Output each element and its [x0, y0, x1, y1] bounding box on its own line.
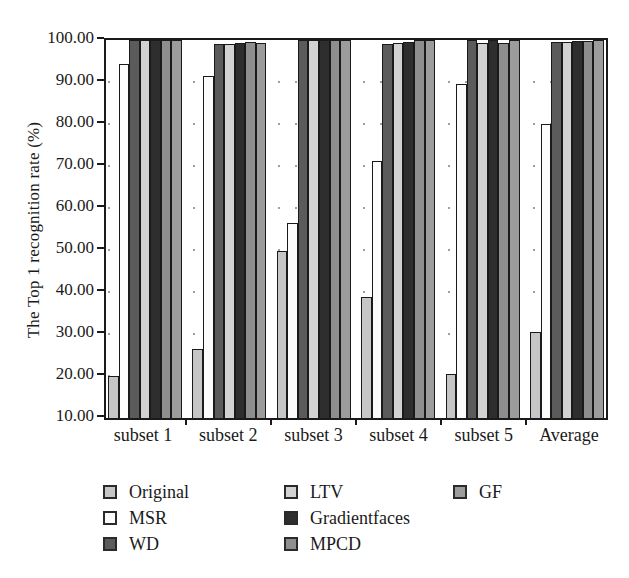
bar-gf — [256, 43, 267, 418]
bar-original — [446, 374, 457, 418]
bar-gf — [171, 40, 182, 418]
bar-original — [277, 251, 288, 418]
y-tick-mark — [97, 163, 104, 165]
x-tick-label: subset 3 — [284, 425, 343, 446]
legend-item-wd: WD — [103, 531, 284, 557]
bar-group — [277, 40, 351, 418]
x-tick-mark — [355, 418, 357, 425]
legend-item-gf: GF — [453, 479, 502, 505]
x-tick-label: subset 1 — [114, 425, 173, 446]
y-tick-label: 70.00 — [0, 155, 94, 173]
bar-ltv — [393, 43, 404, 418]
y-tick-label: 20.00 — [0, 365, 94, 383]
bar-wd — [551, 42, 562, 418]
bar-ltv — [477, 43, 488, 418]
bar-wd — [467, 40, 478, 418]
legend-label: Original — [129, 482, 189, 503]
legend-item-gradientfaces: Gradientfaces — [284, 505, 453, 531]
legend-swatch-msr — [103, 511, 117, 525]
plot-area — [104, 38, 608, 420]
bar-group — [108, 40, 182, 418]
bar-group — [361, 40, 435, 418]
bar-wd — [298, 40, 309, 418]
bar-original — [108, 376, 119, 418]
y-tick-mark — [97, 331, 104, 333]
bar-msr — [119, 64, 130, 418]
y-tick-label: 100.00 — [0, 29, 94, 47]
bar-msr — [372, 161, 383, 418]
bar-ltv — [140, 40, 151, 418]
bar-mpcd — [414, 40, 425, 418]
legend: OriginalMSRWDLTVGradientfacesMPCDGF — [103, 479, 502, 557]
y-tick-mark — [97, 205, 104, 207]
y-tick-mark — [97, 289, 104, 291]
bar-mpcd — [330, 40, 341, 418]
bar-chart-figure: The Top 1 recognition rate (%) 10.0020.0… — [0, 0, 629, 578]
y-tick-mark — [97, 79, 104, 81]
bar-gradientfaces — [319, 40, 330, 418]
legend-swatch-original — [103, 485, 117, 499]
bar-group — [192, 40, 266, 418]
bar-gradientfaces — [235, 43, 246, 418]
bar-gradientfaces — [488, 40, 499, 418]
y-tick-mark — [97, 373, 104, 375]
y-tick-label: 60.00 — [0, 197, 94, 215]
legend-column: GF — [453, 479, 502, 557]
bar-gf — [509, 40, 520, 418]
bar-group — [446, 40, 520, 418]
bar-mpcd — [245, 42, 256, 418]
legend-label: WD — [129, 534, 159, 555]
legend-label: MPCD — [310, 534, 361, 555]
x-tick-mark — [185, 418, 187, 425]
bar-original — [192, 349, 203, 418]
y-tick-label: 10.00 — [0, 407, 94, 425]
bar-ltv — [308, 40, 319, 418]
bar-groups — [106, 40, 606, 418]
legend-label: GF — [479, 482, 502, 503]
legend-column: OriginalMSRWD — [103, 479, 284, 557]
bar-ltv — [224, 44, 235, 418]
bar-gradientfaces — [572, 41, 583, 418]
x-tick-mark — [440, 418, 442, 425]
legend-column: LTVGradientfacesMPCD — [284, 479, 453, 557]
legend-swatch-mpcd — [284, 537, 298, 551]
legend-swatch-ltv — [284, 485, 298, 499]
bar-gf — [593, 40, 604, 418]
y-tick-label: 80.00 — [0, 113, 94, 131]
bar-msr — [203, 76, 214, 418]
legend-item-msr: MSR — [103, 505, 284, 531]
x-tick-label: subset 4 — [369, 425, 428, 446]
legend-label: Gradientfaces — [310, 508, 410, 529]
bar-wd — [129, 40, 140, 418]
legend-swatch-gradientfaces — [284, 511, 298, 525]
y-tick-mark — [97, 37, 104, 39]
x-tick-mark — [270, 418, 272, 425]
legend-swatch-gf — [453, 485, 467, 499]
x-tick-mark — [525, 418, 527, 425]
bar-msr — [541, 124, 552, 418]
y-tick-label: 30.00 — [0, 323, 94, 341]
bar-msr — [287, 223, 298, 418]
y-tick-label: 90.00 — [0, 71, 94, 89]
bar-mpcd — [161, 40, 172, 418]
y-tick-mark — [97, 415, 104, 417]
bar-wd — [382, 44, 393, 418]
legend-label: LTV — [310, 482, 343, 503]
y-tick-label: 50.00 — [0, 239, 94, 257]
x-tick-label: subset 5 — [455, 425, 514, 446]
legend-item-ltv: LTV — [284, 479, 453, 505]
bar-gradientfaces — [150, 40, 161, 418]
bar-gf — [425, 40, 436, 418]
bar-group — [530, 40, 604, 418]
bar-mpcd — [583, 41, 594, 418]
x-tick-label: Average — [539, 425, 599, 446]
legend-label: MSR — [129, 508, 167, 529]
bar-gf — [340, 40, 351, 418]
y-tick-label: 40.00 — [0, 281, 94, 299]
y-tick-mark — [97, 121, 104, 123]
legend-item-original: Original — [103, 479, 284, 505]
bar-ltv — [562, 42, 573, 418]
y-tick-mark — [97, 247, 104, 249]
bar-msr — [456, 84, 467, 418]
bar-gradientfaces — [403, 42, 414, 418]
